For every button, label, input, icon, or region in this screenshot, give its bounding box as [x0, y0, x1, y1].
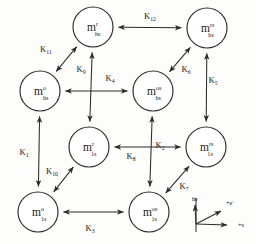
- node-sub-m-os-hs: hs: [155, 95, 161, 101]
- node-sub-m-rs-hs: hs: [208, 32, 214, 38]
- edge-k12: K12: [118, 11, 181, 28]
- legend-label-axis-hs: hs: [192, 195, 198, 202]
- axis-legend: hs+e-+s: [192, 195, 244, 232]
- legend-axis-s-arrow: [196, 224, 227, 225]
- node-m-os-hs[interactable]: moshs: [133, 71, 173, 111]
- legend-label-axis-s: +s: [238, 221, 244, 228]
- edge-arrow-k11: [56, 47, 76, 72]
- edge-k8: K8: [115, 147, 181, 162]
- node-sup-m-o-hs: o: [43, 85, 46, 91]
- edge-label-k6: K6: [181, 64, 190, 75]
- edge-arrow-k12: [118, 27, 181, 28]
- node-m-o-hs[interactable]: mohs: [20, 71, 60, 111]
- edge-label-k1: K1: [19, 147, 28, 158]
- edge-label-k5: K5: [208, 75, 217, 86]
- edge-k4: K4: [66, 73, 128, 91]
- node-sup-m-os-1s: os: [152, 206, 158, 212]
- node-m-os-1s[interactable]: mos1s: [129, 192, 169, 232]
- edge-arrow-k1: [38, 116, 39, 186]
- kinetic-scheme-diagram: K1K2K3K4K5K6K7K8K9K10K11K12 mrhsmrshsmoh…: [0, 0, 256, 244]
- edge-label-k2: K2: [155, 140, 164, 151]
- edge-label-k11: K11: [40, 44, 52, 55]
- node-sup-m-os-hs: os: [156, 85, 162, 91]
- edge-k5: K5: [206, 53, 217, 121]
- edge-k10: K10: [46, 166, 73, 192]
- legend-label-axis-electron: +e-: [226, 199, 234, 206]
- node-m-rs-hs[interactable]: mrshs: [187, 8, 227, 48]
- node-sub-m-os-1s: 1s: [151, 216, 157, 222]
- node-sub-m-r-hs: hs: [95, 31, 101, 37]
- legend-axis-electron-arrow: [196, 211, 221, 224]
- node-sub-m-rs-1s: 1s: [207, 151, 213, 157]
- node-sub-m-o-hs: hs: [43, 95, 49, 101]
- node-sup-m-rs-1s: rs: [209, 141, 214, 147]
- node-m-o-1s[interactable]: mo1s: [18, 192, 58, 232]
- node-m-r-1s[interactable]: mr1s: [69, 127, 109, 167]
- edge-label-k4: K4: [105, 73, 114, 84]
- node-sub-m-r-1s: 1s: [91, 151, 97, 157]
- node-m-r-hs[interactable]: mrhs: [73, 7, 113, 47]
- edge-k11: K11: [40, 44, 77, 71]
- node-sup-m-rs-hs: rs: [210, 22, 215, 28]
- edge-label-k12: K12: [144, 11, 156, 22]
- edge-k9: K9: [76, 52, 92, 121]
- node-sup-m-r-hs: r: [96, 21, 98, 27]
- edge-k7: K7: [166, 166, 189, 193]
- edge-arrow-k9: [90, 52, 92, 121]
- node-sub-m-o-1s: 1s: [41, 216, 47, 222]
- node-m-rs-1s[interactable]: mrs1s: [186, 127, 226, 167]
- edge-k2: K2: [150, 116, 165, 186]
- edge-label-k9: K9: [76, 64, 85, 75]
- node-sup-m-o-1s: o: [41, 206, 44, 212]
- node-sup-m-r-1s: r: [92, 141, 94, 147]
- edge-k3: K3: [64, 212, 124, 234]
- edge-arrow-k2: [150, 116, 152, 186]
- figure-canvas: K1K2K3K4K5K6K7K8K9K10K11K12 mrhsmrshsmoh…: [0, 0, 256, 244]
- edge-label-k10: K10: [46, 166, 58, 177]
- edge-k1: K1: [19, 116, 39, 186]
- edge-label-k7: K7: [179, 181, 188, 192]
- edge-k6: K6: [170, 47, 191, 75]
- edge-arrow-k5: [206, 53, 207, 121]
- edge-label-k3: K3: [85, 223, 94, 234]
- edge-label-k8: K8: [126, 151, 135, 162]
